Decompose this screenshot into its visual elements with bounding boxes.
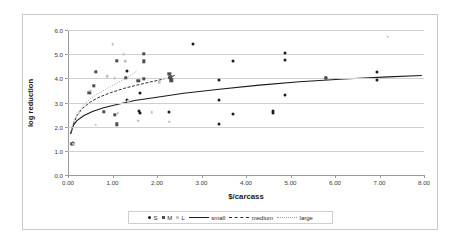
legend-item-M[interactable]: M [162, 215, 173, 221]
data-point-m [142, 60, 145, 63]
data-point-s [376, 71, 379, 74]
legend-item-label: medium [252, 215, 273, 221]
data-point-s [271, 111, 274, 114]
data-point-m [115, 123, 118, 126]
x-tick-mark [291, 175, 292, 178]
x-tick-mark [380, 175, 381, 178]
x-tick-label: 6.00 [329, 179, 341, 186]
data-point-l [127, 100, 130, 103]
data-point-l [111, 43, 114, 46]
data-point-l [386, 35, 389, 38]
data-point-s [218, 122, 221, 125]
y-tick-mark [65, 151, 68, 152]
legend-swatch-icon [277, 217, 297, 218]
data-point-m [115, 59, 118, 62]
legend-item-L[interactable]: L [176, 215, 184, 221]
data-point-l [72, 142, 75, 145]
legend-swatch-icon [229, 217, 249, 218]
data-point-l [122, 53, 125, 56]
data-point-l [124, 60, 127, 63]
data-point-m [102, 110, 105, 113]
x-axis-title: $/carcass [228, 192, 264, 201]
legend-item-label: L [181, 215, 184, 221]
gridline-horizontal [68, 151, 424, 152]
data-point-m [170, 79, 173, 82]
x-tick-label: 2.00 [151, 179, 163, 186]
legend-item-large[interactable]: large [277, 215, 313, 221]
y-tick-label: 3.0 [54, 99, 63, 106]
plot-area: 0.01.02.03.04.05.06.00.001.002.003.004.0… [68, 30, 424, 175]
y-tick-label: 2.0 [54, 123, 63, 130]
legend-item-label: large [300, 215, 313, 221]
data-point-l [168, 121, 171, 124]
x-tick-mark [246, 175, 247, 178]
data-point-m [142, 52, 145, 55]
chart-root: log reduction $/carcass 0.01.02.03.04.05… [0, 0, 459, 248]
x-tick-mark [202, 175, 203, 178]
x-tick-label: 3.00 [195, 179, 207, 186]
chart-legend[interactable]: SMLsmallmediumlarge [128, 211, 333, 224]
data-point-s [139, 92, 142, 95]
data-point-s [218, 99, 221, 102]
legend-swatch-icon [148, 216, 151, 219]
x-tick-label: 4.00 [240, 179, 252, 186]
x-tick-label: 1.00 [106, 179, 118, 186]
data-point-m [94, 70, 97, 73]
curve-small [71, 75, 422, 133]
y-tick-label: 4.0 [54, 75, 63, 82]
data-point-l [89, 90, 92, 93]
x-tick-mark [113, 175, 114, 178]
data-point-m [92, 84, 95, 87]
legend-swatch-icon [176, 216, 179, 219]
data-point-s [125, 69, 128, 72]
y-axis-title: log reduction [26, 79, 35, 127]
y-tick-mark [65, 103, 68, 104]
data-point-l [150, 111, 153, 114]
data-point-s [284, 52, 287, 55]
x-tick-label: 5.00 [284, 179, 296, 186]
data-point-s [139, 111, 142, 114]
data-point-l [106, 75, 109, 78]
y-tick-label: 0.0 [54, 172, 63, 179]
data-point-s [284, 59, 287, 62]
data-point-s [284, 93, 287, 96]
data-point-s [191, 43, 194, 46]
data-point-m [124, 76, 127, 79]
data-point-l [158, 81, 161, 84]
data-point-s [168, 111, 171, 114]
gridline-horizontal [68, 103, 424, 104]
data-point-s [231, 59, 234, 62]
data-point-s [231, 112, 234, 115]
y-tick-label: 5.0 [54, 51, 63, 58]
legend-item-label: small [211, 215, 225, 221]
x-tick-label: 0.00 [62, 179, 74, 186]
data-point-l [113, 77, 116, 80]
data-point-m [137, 79, 140, 82]
data-point-s [376, 79, 379, 82]
legend-item-S[interactable]: S [148, 215, 158, 221]
x-tick-mark [424, 175, 425, 178]
y-tick-mark [65, 30, 68, 31]
data-point-m [142, 77, 145, 80]
x-tick-mark [157, 175, 158, 178]
gridline-horizontal [68, 30, 424, 31]
x-tick-mark [335, 175, 336, 178]
data-point-l [70, 127, 73, 130]
data-point-l [94, 123, 97, 126]
y-tick-mark [65, 78, 68, 79]
y-tick-label: 1.0 [54, 147, 63, 154]
legend-swatch-icon [162, 216, 165, 219]
gridline-horizontal [68, 78, 424, 79]
legend-swatch-icon [189, 217, 209, 218]
data-point-l [137, 119, 140, 122]
legend-item-small[interactable]: small [189, 215, 226, 221]
legend-item-medium[interactable]: medium [229, 215, 273, 221]
x-tick-label: 8.00 [418, 179, 430, 186]
gridline-horizontal [68, 127, 424, 128]
x-tick-label: 7.00 [373, 179, 385, 186]
x-tick-mark [68, 175, 69, 178]
y-tick-mark [65, 54, 68, 55]
legend-item-label: M [167, 215, 172, 221]
y-tick-mark [65, 127, 68, 128]
y-tick-label: 6.0 [54, 27, 63, 34]
